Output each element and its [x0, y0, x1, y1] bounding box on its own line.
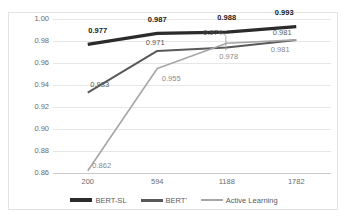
- chart-legend: BERT-SLBERT'Active Learning: [9, 193, 339, 207]
- y-axis-tick-label: 0.88: [9, 147, 49, 155]
- y-axis: 1.000.980.960.940.920.900.880.86: [9, 19, 49, 173]
- legend-color-swatch: [70, 198, 92, 202]
- legend-color-swatch: [201, 199, 223, 201]
- y-axis-tick-label: 0.96: [9, 59, 49, 67]
- legend-label: BERT': [166, 196, 187, 205]
- data-label: 0.981: [273, 27, 292, 36]
- y-axis-tick-label: 1.00: [9, 15, 49, 23]
- legend-item[interactable]: BERT': [141, 196, 187, 205]
- data-label: 0.993: [275, 7, 294, 16]
- data-label: 0.988: [217, 13, 236, 22]
- data-label: 0.974: [203, 27, 222, 36]
- data-label: 0.955: [162, 73, 181, 82]
- x-axis-tick-label: 594: [151, 177, 164, 186]
- legend-color-swatch: [141, 199, 163, 202]
- gridline: [53, 173, 331, 174]
- legend-item[interactable]: Active Learning: [201, 196, 278, 205]
- data-label: 0.862: [92, 160, 111, 169]
- plot-area: 0.9770.9870.9880.9930.9330.9710.9740.981…: [53, 19, 331, 173]
- legend-item[interactable]: BERT-SL: [70, 196, 126, 205]
- legend-label: BERT-SL: [95, 196, 126, 205]
- legend-label: Active Learning: [226, 196, 278, 205]
- data-label: 0.987: [148, 15, 167, 24]
- y-axis-tick-label: 0.86: [9, 169, 49, 177]
- y-axis-tick-label: 0.90: [9, 125, 49, 133]
- x-axis: 20059411881782: [53, 177, 331, 191]
- data-label: 0.977: [88, 26, 107, 35]
- x-axis-tick-label: 200: [81, 177, 94, 186]
- x-axis-tick-label: 1782: [288, 177, 305, 186]
- x-axis-tick-label: 1188: [219, 177, 235, 186]
- y-axis-tick-label: 0.92: [9, 103, 49, 111]
- data-label: 0.981: [271, 44, 290, 53]
- y-axis-tick-label: 0.98: [9, 37, 49, 45]
- series-line: [88, 40, 297, 171]
- series-line: [88, 40, 297, 93]
- series-lines: [53, 19, 331, 173]
- data-label: 0.971: [146, 37, 165, 46]
- data-label: 0.978: [219, 52, 238, 61]
- y-axis-tick-label: 0.94: [9, 81, 49, 89]
- chart-container: 1.000.980.960.940.920.900.880.86 0.9770.…: [8, 12, 338, 210]
- data-label: 0.933: [90, 79, 109, 88]
